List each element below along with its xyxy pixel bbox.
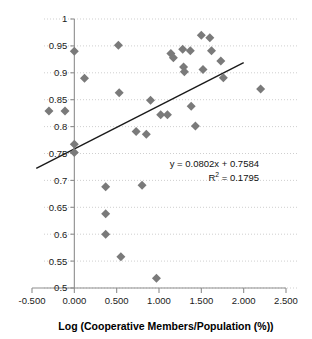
x-axis-title: Log (Cooperative Members/Population (%)) — [58, 320, 273, 332]
data-point-marker — [116, 252, 125, 261]
x-axis-tick-label: 1.000 — [147, 295, 171, 306]
data-point-marker — [146, 96, 155, 105]
y-axis-tick-label: 1 — [62, 13, 67, 24]
x-axis-tick-label: 0.500 — [105, 295, 129, 306]
data-point-marker — [101, 230, 110, 239]
data-point-marker — [114, 41, 123, 50]
data-point-marker — [101, 209, 110, 218]
x-axis-tick-label: 2.000 — [232, 295, 256, 306]
data-point-marker — [138, 181, 147, 190]
x-axis-tick-label: 1.500 — [189, 295, 213, 306]
data-point-marker — [61, 106, 70, 115]
plot-area: 0.50.550.60.650.70.750.80.850.90.951 -0.… — [0, 0, 312, 339]
y-axis-tick-label: 0.7 — [54, 175, 67, 186]
data-point-marker — [191, 122, 200, 131]
y-axis-tick-label: 0.5 — [54, 282, 67, 293]
y-axis-tick-label: 0.6 — [54, 229, 67, 240]
axis-ticks — [32, 19, 286, 293]
y-axis-tick-label: 0.8 — [54, 121, 67, 132]
data-point-marker — [101, 182, 110, 191]
data-point-marker — [187, 102, 196, 111]
data-point-marker — [216, 56, 225, 65]
r-squared-label: R2 = 0.1795 — [208, 171, 259, 183]
data-point-marker — [44, 106, 53, 115]
y-axis-tick-label: 0.9 — [54, 67, 67, 78]
x-axis-tick-label: -0.500 — [19, 295, 46, 306]
y-axis-tick-label: 0.85 — [49, 94, 68, 105]
data-point-marker — [132, 127, 141, 136]
data-point-marker — [207, 46, 216, 55]
data-point-marker — [70, 148, 79, 157]
y-axis-tick-label: 0.65 — [49, 202, 68, 213]
y-axis-tick-label: 0.95 — [49, 40, 68, 51]
data-point-marker — [115, 88, 124, 97]
data-point-marker — [256, 84, 265, 93]
data-point-marker — [186, 46, 195, 55]
data-point-marker — [70, 47, 79, 56]
trendline — [36, 63, 243, 169]
data-point-marker — [163, 110, 172, 119]
data-point-marker — [205, 33, 214, 42]
scatter-chart: 0.50.550.60.650.70.750.80.850.90.951 -0.… — [0, 0, 312, 339]
x-axis-tick-labels: -0.5000.0000.5001.0001.5002.0002.500 — [19, 295, 298, 306]
data-point-marker — [197, 31, 206, 40]
y-axis-tick-label: 0.55 — [49, 256, 68, 267]
data-point-marker — [152, 274, 161, 283]
x-axis-tick-label: 2.500 — [274, 295, 298, 306]
data-point-marker — [142, 130, 151, 139]
x-axis-tick-label: 0.000 — [62, 295, 86, 306]
regression-equation-label: y = 0.0802x + 0.7584 — [170, 158, 259, 169]
data-point-marker — [80, 74, 89, 83]
trendline-segment — [36, 63, 243, 169]
